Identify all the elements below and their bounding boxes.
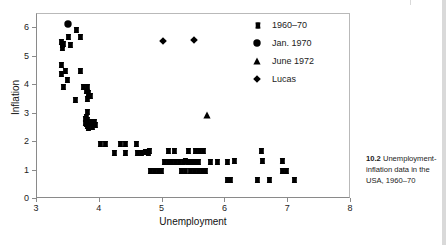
data-point	[184, 147, 191, 154]
x-axis-tick-label: 7	[285, 203, 290, 213]
data-point	[291, 176, 298, 183]
data-point	[199, 148, 206, 155]
y-axis-tick-label: 2	[19, 136, 29, 146]
data-point	[266, 176, 273, 183]
data-point	[86, 92, 93, 99]
y-axis-tick	[32, 84, 36, 85]
legend-item: June 1972	[248, 52, 348, 70]
legend-item-label: June 1972	[266, 56, 314, 66]
cross-marker	[248, 22, 266, 29]
legend-item-label: 1960–70	[266, 20, 307, 30]
x-axis-tick-label: 3	[33, 203, 38, 213]
y-axis-tick-label: 6	[19, 22, 29, 32]
y-axis-tick-label: 5	[19, 51, 29, 61]
data-point	[110, 150, 117, 157]
y-axis-tick-label: 4	[19, 79, 29, 89]
legend-item: Lucas	[248, 70, 348, 88]
data-point	[121, 150, 128, 157]
circle-marker	[248, 39, 266, 47]
x-axis-tick-label: 4	[96, 203, 101, 213]
data-point	[282, 167, 289, 174]
legend-item-label: Lucas	[266, 74, 296, 84]
page-edge-mark	[442, 0, 446, 245]
x-axis-tick-label: 8	[347, 203, 352, 213]
diamond-marker	[248, 75, 266, 83]
x-axis-tick	[99, 198, 100, 202]
data-point	[121, 141, 128, 148]
data-point	[194, 159, 201, 166]
data-point	[89, 124, 96, 131]
x-axis-tick	[350, 198, 351, 202]
legend-item: 1960–70	[248, 16, 348, 34]
data-point	[227, 176, 234, 183]
x-axis-tick	[36, 198, 37, 202]
data-point	[76, 68, 83, 75]
data-point	[190, 36, 198, 44]
y-axis-tick-label: 3	[19, 108, 29, 118]
data-point	[60, 84, 67, 91]
y-axis-tick	[32, 56, 36, 57]
data-point	[258, 158, 265, 165]
chart-legend: 1960–70Jan. 1970June 1972Lucas	[248, 16, 348, 88]
data-point	[62, 68, 69, 75]
figure-caption: 10.2 Unemployment-inflation data in the …	[366, 153, 442, 186]
data-point	[278, 158, 285, 165]
data-point	[71, 96, 78, 103]
data-point	[76, 34, 83, 41]
y-axis-tick	[32, 170, 36, 171]
data-point	[101, 141, 108, 148]
y-axis-tick-label: 1	[19, 165, 29, 175]
figure-root: 3456780123456 Unemployment Inflation 196…	[0, 0, 446, 245]
y-axis-tick	[32, 141, 36, 142]
y-axis-tick	[32, 198, 36, 199]
x-axis-tick	[162, 198, 163, 202]
triangle-marker	[248, 57, 266, 65]
data-point	[65, 33, 72, 40]
data-point	[64, 77, 71, 84]
data-point	[213, 159, 220, 166]
data-point	[145, 147, 152, 154]
data-point	[159, 37, 167, 45]
y-axis-tick	[32, 113, 36, 114]
data-point	[170, 147, 177, 154]
data-point	[203, 111, 211, 119]
x-axis-tick	[224, 198, 225, 202]
figure-caption-number: 10.2	[366, 154, 381, 163]
data-point	[223, 159, 230, 166]
legend-item: Jan. 1970	[248, 34, 348, 52]
page-crop-mark	[410, 0, 411, 5]
data-point	[253, 176, 260, 183]
y-axis-tick	[32, 27, 36, 28]
data-point	[66, 41, 73, 48]
legend-item-label: Jan. 1970	[266, 38, 312, 48]
scatter-chart: 3456780123456 Unemployment Inflation 196…	[0, 0, 360, 245]
data-point	[64, 20, 72, 28]
data-point	[257, 147, 264, 154]
data-point	[72, 26, 79, 33]
x-axis-title: Unemployment	[36, 216, 350, 227]
data-point	[133, 141, 140, 148]
x-axis-tick	[287, 198, 288, 202]
data-point	[231, 158, 238, 165]
x-axis-tick-label: 6	[222, 203, 227, 213]
y-axis-tick-label: 0	[19, 193, 29, 203]
data-point	[202, 167, 209, 174]
data-point	[158, 167, 165, 174]
y-axis-title: Inflation	[10, 58, 21, 138]
x-axis-tick-label: 5	[159, 203, 164, 213]
